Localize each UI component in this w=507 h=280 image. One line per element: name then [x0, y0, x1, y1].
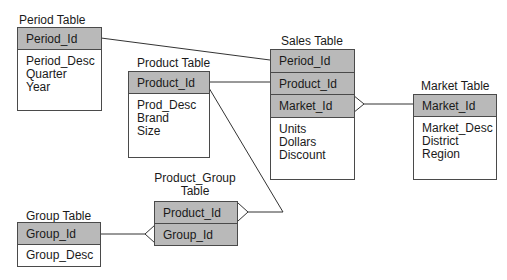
attr-region: Region	[422, 148, 488, 161]
period-table-title: Period Table	[19, 14, 86, 27]
crowfoot-productgroup-product	[238, 203, 248, 221]
product-table-title: Product Table	[137, 57, 210, 70]
sales-attributes: Units Dollars Discount	[271, 118, 354, 167]
product-group-title-line2: Table	[150, 185, 240, 198]
market-table: Market_Id Market_Desc District Region	[413, 94, 497, 180]
sales-market-id-key: Market_Id	[271, 95, 354, 118]
product-group-table: Product_Id Group_Id	[154, 201, 238, 246]
period-attributes: Period_Desc Quarter Year	[18, 50, 101, 99]
sales-product-id-key: Product_Id	[271, 73, 354, 95]
sales-table-title: Sales Table	[281, 35, 343, 48]
product-attributes: Prod_Desc Brand Size	[129, 94, 209, 143]
sales-period-id-key: Period_Id	[271, 50, 354, 73]
attr-size: Size	[137, 125, 201, 138]
product-group-table-title: Product_Group Table	[150, 172, 240, 198]
pg-group-id-key: Group_Id	[155, 224, 237, 245]
group-id-key: Group_Id	[18, 223, 100, 245]
product-table: Product_Id Prod_Desc Brand Size	[128, 71, 210, 158]
market-table-title: Market Table	[421, 80, 489, 93]
group-table: Group_Id Group_Desc	[17, 222, 101, 267]
period-table: Period_Id Period_Desc Quarter Year	[17, 27, 102, 111]
group-attributes: Group_Desc	[18, 245, 100, 267]
pg-product-id-key: Product_Id	[155, 202, 237, 224]
period-id-key: Period_Id	[18, 28, 101, 50]
market-id-key: Market_Id	[414, 95, 496, 117]
attr-discount: Discount	[279, 149, 346, 162]
product-id-key: Product_Id	[129, 72, 209, 94]
market-attributes: Market_Desc District Region	[414, 117, 496, 166]
attr-year: Year	[26, 81, 93, 94]
attr-group-desc: Group_Desc	[26, 249, 92, 262]
sales-table: Period_Id Product_Id Market_Id Units Dol…	[270, 49, 355, 180]
